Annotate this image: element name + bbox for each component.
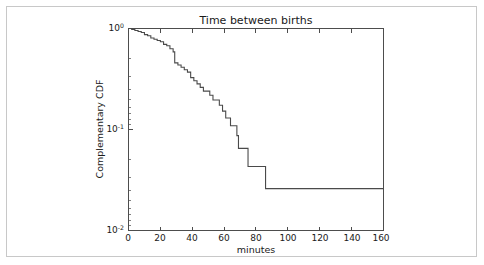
axes-spines (129, 29, 384, 231)
y-tick-labels: 100 10-1 10-2 (106, 22, 124, 236)
x-tick-label: 60 (218, 233, 230, 243)
x-tick-label: 160 (372, 233, 389, 243)
x-tick-label: 40 (186, 233, 198, 243)
x-tick-label: 20 (154, 233, 166, 243)
chart-title: Time between births (198, 14, 312, 27)
y-axis-ticks (129, 29, 133, 231)
y-tick-label-1e-2: 10-2 (106, 224, 124, 236)
ccdf-step-line (129, 29, 384, 189)
x-tick-label: 0 (125, 233, 131, 243)
x-axis-label: minutes (237, 244, 276, 255)
y-axis-label: Complementary CDF (94, 80, 105, 179)
x-axis-ticks (129, 29, 384, 231)
x-tick-label: 120 (311, 233, 328, 243)
chart-root: 0 20 40 60 80 100 120 140 160 100 10-1 1… (0, 0, 484, 265)
y-tick-label-1e-1: 10-1 (106, 123, 124, 135)
x-tick-label: 100 (279, 233, 296, 243)
y-tick-label-1e0: 100 (109, 22, 124, 34)
x-tick-label: 80 (250, 233, 262, 243)
plot-area: 0 20 40 60 80 100 120 140 160 100 10-1 1… (0, 0, 484, 265)
x-tick-labels: 0 20 40 60 80 100 120 140 160 (125, 233, 390, 243)
axes-frame (129, 29, 384, 231)
x-tick-label: 140 (343, 233, 360, 243)
